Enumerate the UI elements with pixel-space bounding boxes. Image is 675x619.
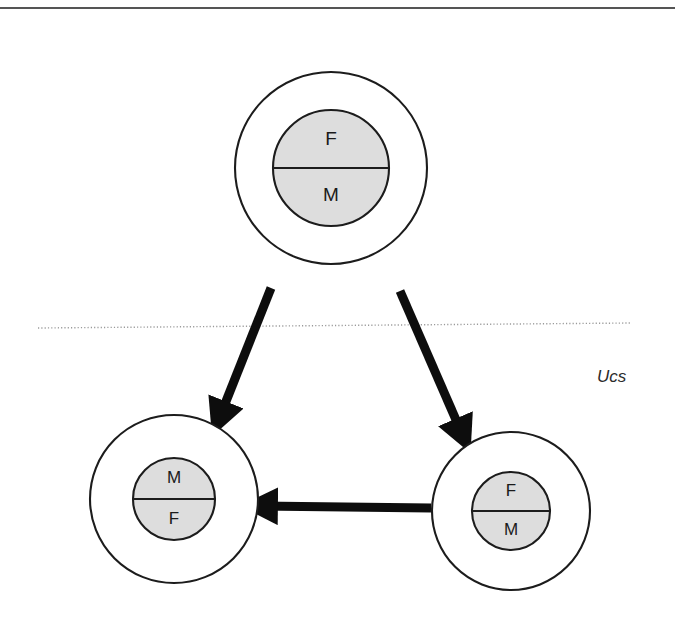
bottom-right-node-lower-label: M — [504, 520, 518, 539]
unconscious-boundary-line — [38, 323, 632, 328]
bottom-left-node-lower-label: F — [169, 509, 179, 528]
bottom-right-node: F M — [432, 432, 590, 590]
bottom-right-node-upper-label: F — [506, 481, 516, 500]
arrow-bottom-right-to-bottom-left — [259, 506, 431, 508]
diagram-canvas: F M M F F M Ucs — [0, 0, 675, 619]
bottom-left-node: M F — [90, 415, 258, 583]
arrow-group — [219, 288, 463, 508]
arrow-top-to-bottom-right — [400, 291, 463, 436]
top-node: F M — [235, 72, 427, 264]
bottom-left-node-upper-label: M — [167, 468, 181, 487]
top-node-upper-label: F — [325, 128, 337, 149]
arrow-top-to-bottom-left — [219, 288, 271, 419]
unconscious-label: Ucs — [597, 367, 627, 386]
top-node-lower-label: M — [323, 184, 339, 205]
